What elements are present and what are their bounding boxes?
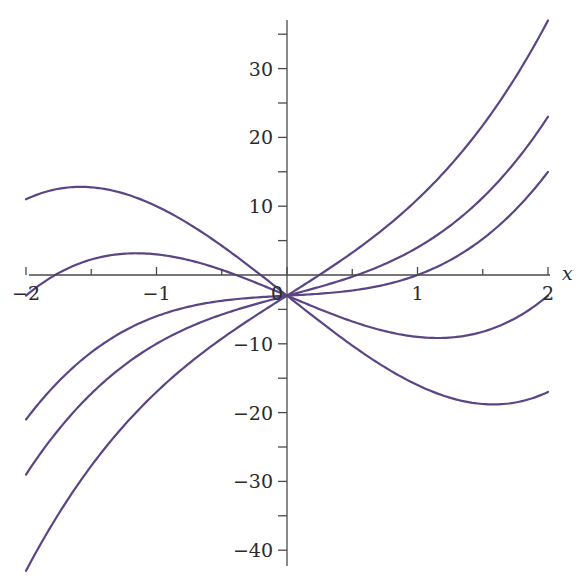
x-tick-label: 1 bbox=[411, 282, 423, 304]
x-tick-label: 2 bbox=[542, 282, 554, 304]
x-tick-label: 0 bbox=[271, 282, 283, 304]
y-tick-label: −20 bbox=[233, 402, 273, 424]
y-tick-label: −10 bbox=[233, 333, 273, 355]
y-tick-label: −30 bbox=[233, 470, 273, 492]
x-tick-label: −1 bbox=[142, 282, 170, 304]
x-axis-ticks: −2−1012 bbox=[12, 267, 554, 304]
y-tick-label: 10 bbox=[249, 195, 273, 217]
y-tick-label: −40 bbox=[233, 539, 273, 561]
x-tick-label: −2 bbox=[12, 282, 40, 304]
chart: −2−1012 302010−10−20−30−40 x bbox=[0, 0, 583, 588]
x-axis-label: x bbox=[562, 262, 573, 284]
y-tick-label: 20 bbox=[249, 126, 273, 148]
y-tick-label: 30 bbox=[249, 58, 273, 80]
